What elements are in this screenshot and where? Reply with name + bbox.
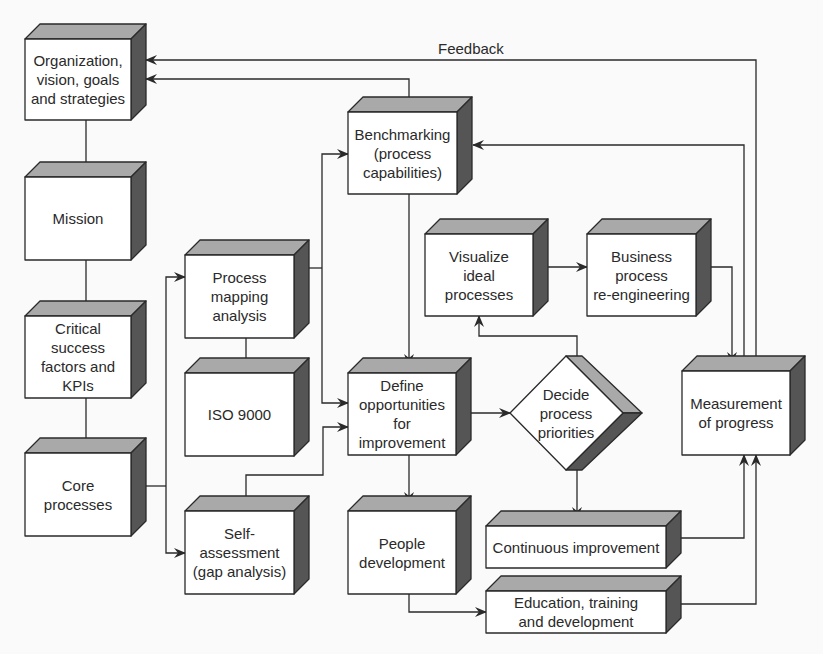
node-mission: [25, 162, 146, 260]
feedback-label: Feedback: [438, 40, 504, 57]
node-self: [185, 496, 309, 594]
diagram-canvas: [0, 0, 823, 654]
edge-people-to-edu: [409, 594, 486, 612]
node-ci: [486, 511, 681, 568]
node-org: [25, 24, 146, 120]
node-decide: [510, 356, 642, 470]
edge-pma-to-bench: [322, 154, 348, 268]
node-define: [348, 358, 471, 455]
node-edu: [486, 576, 681, 633]
node-pma: [185, 240, 309, 338]
edge-core-to-self: [166, 486, 185, 553]
edge-pma-to-define: [322, 268, 348, 403]
node-people: [348, 496, 471, 594]
node-iso: [185, 358, 309, 456]
node-bench: [348, 97, 472, 194]
edge-ci-to-measure: [674, 455, 744, 538]
edge-core-to-pma: [166, 277, 185, 486]
node-visualize: [425, 219, 548, 316]
node-measure: [682, 356, 805, 455]
edge-decide-to-visualize: [479, 316, 577, 356]
node-bpr: [587, 219, 711, 316]
node-core: [25, 438, 146, 536]
node-csf: [25, 301, 146, 398]
